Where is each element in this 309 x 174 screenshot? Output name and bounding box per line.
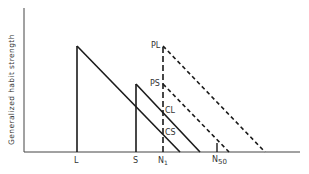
x-label-N1: N1 (158, 156, 168, 166)
PS-dashed-line (163, 84, 229, 152)
S-gradient-line (136, 84, 200, 152)
label-CS: CS (165, 128, 176, 137)
label-CL: CL (165, 106, 176, 115)
x-label-L: L (74, 156, 79, 165)
habit-strength-diagram: Generalized habit strength PL PS CL CS L… (0, 0, 309, 174)
x-label-S: S (133, 156, 138, 165)
y-axis-label: Generalized habit strength (7, 34, 16, 145)
label-PL: PL (151, 41, 161, 50)
x-label-N50: N50 (212, 155, 227, 166)
label-PS: PS (150, 79, 160, 88)
